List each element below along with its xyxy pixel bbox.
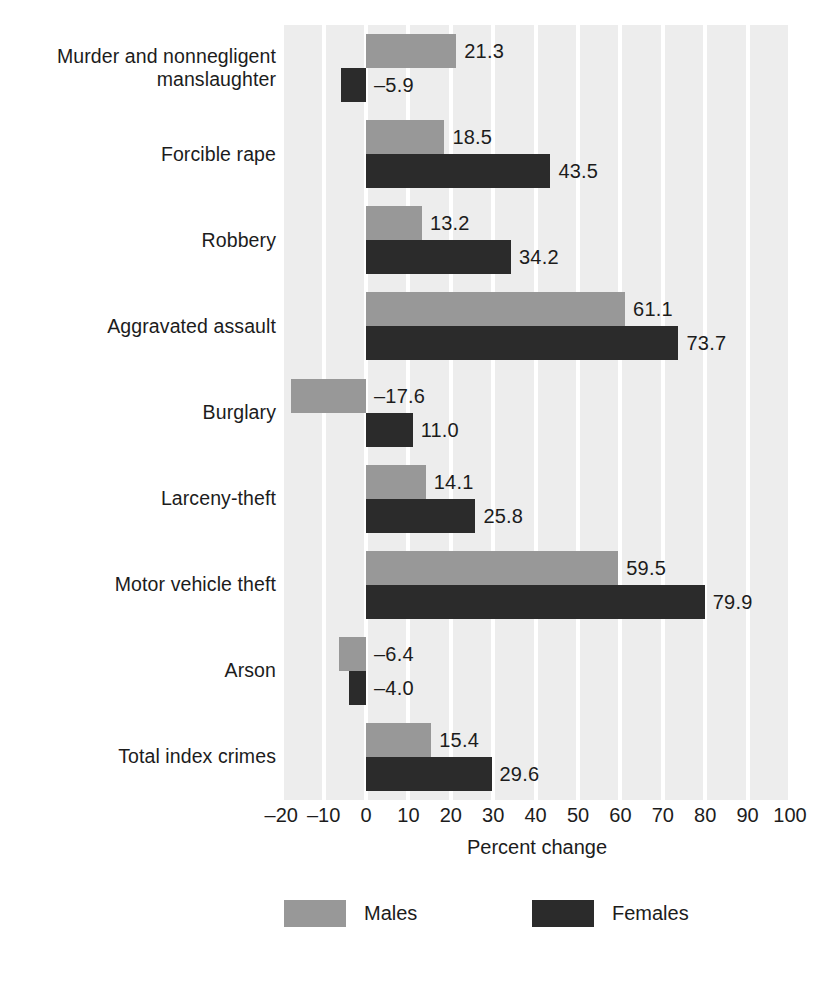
x-tick-label: 60 [609, 802, 631, 828]
category-label-line: Burglary [0, 401, 276, 424]
bar-female [366, 240, 511, 274]
x-tick-label: 30 [482, 802, 504, 828]
x-tick-label: 50 [567, 802, 589, 828]
bar-female [341, 68, 366, 102]
bar-value-label: 21.3 [464, 34, 504, 68]
bar-value-label: 13.2 [430, 206, 470, 240]
x-tick-label: 10 [397, 802, 419, 828]
legend-swatch-icon [284, 900, 346, 927]
gridline [746, 25, 750, 800]
bar-female [349, 671, 366, 705]
legend-item-females[interactable]: Females [532, 900, 689, 927]
chart-legend: MalesFemales [284, 900, 744, 940]
bar-value-label: –4.0 [374, 671, 414, 705]
bar-female [366, 585, 705, 619]
x-tick-label: 0 [360, 802, 371, 828]
bar-male [366, 120, 444, 154]
bar-value-label: 11.0 [421, 413, 459, 447]
x-tick-label: –20 [265, 802, 298, 828]
x-axis-ticks: –20–100102030405060708090100 [284, 802, 790, 832]
legend-swatch-icon [532, 900, 594, 927]
category-label-line: Arson [0, 659, 276, 682]
category-label-line: Motor vehicle theft [0, 573, 276, 596]
category-label: Motor vehicle theft [0, 573, 276, 596]
gridline [661, 25, 665, 800]
bar-value-label: 79.9 [713, 585, 753, 619]
gridline [703, 25, 707, 800]
bar-male [366, 723, 431, 757]
category-label-line: Aggravated assault [0, 315, 276, 338]
category-label: Burglary [0, 401, 276, 424]
x-tick-label: –10 [307, 802, 340, 828]
bar-male [291, 379, 366, 413]
bar-value-label: 43.5 [558, 154, 598, 188]
gridline [788, 25, 792, 800]
legend-label: Males [364, 902, 417, 925]
gridline [322, 25, 326, 800]
category-label-line: Larceny-theft [0, 487, 276, 510]
bar-female [366, 499, 475, 533]
category-label: Forcible rape [0, 143, 276, 166]
category-label: Arson [0, 659, 276, 682]
bar-value-label: –17.6 [374, 379, 425, 413]
bar-value-label: 59.5 [626, 551, 666, 585]
bar-male [366, 34, 456, 68]
gridline [576, 25, 580, 800]
category-label-line: manslaughter [0, 68, 276, 91]
bar-value-label: 73.7 [686, 326, 726, 360]
bar-chart: Murder and nonnegligentmanslaughterForci… [0, 0, 836, 988]
category-label-line: Murder and nonnegligent [0, 45, 276, 68]
x-axis-title: Percent change [284, 836, 790, 859]
bar-value-label: 29.6 [500, 757, 540, 791]
bar-female [366, 154, 550, 188]
bar-male [366, 551, 618, 585]
gridline [534, 25, 538, 800]
bar-value-label: 61.1 [633, 292, 673, 326]
category-label-line: Robbery [0, 229, 276, 252]
x-tick-label: 20 [440, 802, 462, 828]
bar-value-label: 14.1 [434, 465, 474, 499]
category-label-line: Total index crimes [0, 745, 276, 768]
bar-female [366, 757, 492, 791]
bar-value-label: 18.5 [452, 120, 492, 154]
category-label: Aggravated assault [0, 315, 276, 338]
category-axis-labels: Murder and nonnegligentmanslaughterForci… [0, 25, 276, 800]
bar-male [339, 637, 366, 671]
x-tick-label: 80 [694, 802, 716, 828]
x-tick-label: 100 [773, 802, 806, 828]
gridline [279, 25, 283, 800]
bar-male [366, 465, 426, 499]
x-tick-label: 90 [736, 802, 758, 828]
legend-item-males[interactable]: Males [284, 900, 417, 927]
x-tick-label: 40 [524, 802, 546, 828]
bar-male [366, 292, 625, 326]
category-label: Larceny-theft [0, 487, 276, 510]
bar-value-label: 34.2 [519, 240, 559, 274]
bar-male [366, 206, 422, 240]
bar-value-label: –6.4 [374, 637, 414, 671]
category-label: Robbery [0, 229, 276, 252]
bar-female [366, 326, 678, 360]
bar-value-label: –5.9 [374, 68, 414, 102]
x-tick-label: 70 [652, 802, 674, 828]
bar-female [366, 413, 413, 447]
legend-label: Females [612, 902, 689, 925]
category-label: Murder and nonnegligentmanslaughter [0, 45, 276, 91]
bar-value-label: 15.4 [439, 723, 479, 757]
gridline [618, 25, 622, 800]
bar-value-label: 25.8 [483, 499, 523, 533]
category-label-line: Forcible rape [0, 143, 276, 166]
category-label: Total index crimes [0, 745, 276, 768]
